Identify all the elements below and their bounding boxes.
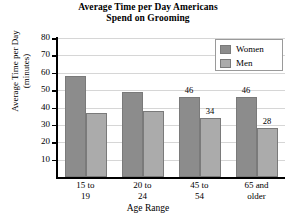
- bar-women-2: [179, 97, 200, 177]
- x-category-label-3: 65 andolder: [228, 180, 285, 201]
- y-axis-title-line1: Average Time per Day: [10, 4, 21, 138]
- x-category-line: older: [228, 191, 285, 202]
- chart-title: Average Time per Day Americans Spend on …: [0, 2, 296, 24]
- x-category-label-2: 45 to54: [171, 180, 228, 201]
- bar-men-0: [86, 113, 107, 177]
- y-tick-mark: [52, 73, 57, 75]
- legend-label-women: Women: [236, 45, 264, 54]
- chart-title-line2: Spend on Grooming: [0, 13, 296, 24]
- chart-title-line1: Average Time per Day Americans: [0, 2, 296, 13]
- bar-men-2: [200, 118, 221, 177]
- y-tick-mark: [52, 142, 57, 144]
- y-tick-label: 60: [28, 68, 50, 77]
- x-category-line: 54: [171, 191, 228, 202]
- x-category-line: 15 to: [57, 180, 114, 191]
- x-category-line: 45 to: [171, 180, 228, 191]
- y-tick-label: 70: [28, 50, 50, 59]
- x-axis-line: [56, 177, 285, 179]
- y-tick-mark: [52, 38, 57, 40]
- y-tick-mark: [52, 125, 57, 127]
- y-tick-mark: [52, 55, 57, 57]
- bar-men-1: [143, 111, 164, 177]
- bar-value-label: 28: [260, 117, 274, 126]
- x-axis-title: Age Range: [0, 203, 296, 213]
- bar-value-label: 46: [182, 86, 196, 95]
- y-tick-mark: [52, 108, 57, 110]
- y-tick-label: 50: [28, 85, 50, 94]
- grooming-time-bar-chart: Average Time per Day Americans Spend on …: [0, 0, 296, 224]
- legend-item-women: Women: [220, 42, 282, 56]
- x-category-label-1: 20 to24: [114, 180, 171, 201]
- y-tick-label: 80: [28, 33, 50, 42]
- bar-women-0: [65, 76, 86, 177]
- x-category-label-0: 15 to19: [57, 180, 114, 201]
- legend-item-men: Men: [220, 56, 282, 70]
- legend-label-men: Men: [236, 59, 253, 68]
- bar-men-3: [257, 128, 278, 177]
- legend-swatch-men-icon: [220, 59, 231, 68]
- y-tick-mark: [52, 90, 57, 92]
- y-tick-label: 40: [28, 103, 50, 112]
- x-category-line: 24: [114, 191, 171, 202]
- bar-women-1: [122, 92, 143, 177]
- y-tick-label: 30: [28, 120, 50, 129]
- y-tick-label: 10: [28, 155, 50, 164]
- bar-women-3: [236, 97, 257, 177]
- x-category-line: 19: [57, 191, 114, 202]
- gridline: [57, 73, 285, 74]
- bar-value-label: 46: [239, 86, 253, 95]
- chart-legend: Women Men: [215, 39, 283, 71]
- x-category-line: 65 and: [228, 180, 285, 191]
- y-tick-mark: [52, 160, 57, 162]
- x-category-line: 20 to: [114, 180, 171, 191]
- bar-value-label: 34: [203, 107, 217, 116]
- y-tick-label: 20: [28, 137, 50, 146]
- legend-swatch-women-icon: [220, 45, 231, 54]
